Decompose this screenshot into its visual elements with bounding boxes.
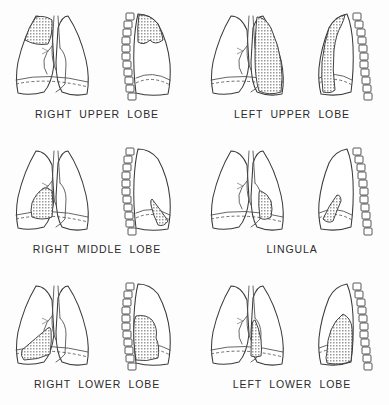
frontal-view <box>16 286 88 365</box>
vertebral-column <box>353 283 372 370</box>
lateral-view <box>319 283 372 370</box>
lateral-view <box>319 13 372 100</box>
lung-lobe-figure: RIGHT UPPER LOBE <box>0 0 389 405</box>
frontal-view <box>16 151 88 230</box>
lateral-view <box>122 283 170 370</box>
frontal-view <box>211 286 283 365</box>
panel-label: RIGHT MIDDLE LOBE <box>0 243 194 255</box>
vertebral-column <box>353 148 372 235</box>
panel-label: LEFT LOWER LOBE <box>195 378 389 390</box>
panel-left-upper-lobe: LEFT UPPER LOBE <box>195 0 389 135</box>
panel-artwork <box>195 270 389 382</box>
panel-right-middle-lobe: RIGHT MIDDLE LOBE <box>0 135 194 270</box>
panel-artwork <box>0 135 194 247</box>
lateral-view <box>122 13 170 100</box>
vertebral-column <box>353 13 372 100</box>
panel-artwork <box>195 0 389 112</box>
lateral-view <box>122 148 170 235</box>
panel-artwork <box>0 0 194 112</box>
panel-artwork <box>195 135 389 247</box>
panel-right-lower-lobe: RIGHT LOWER LOBE <box>0 270 194 405</box>
panel-right-upper-lobe: RIGHT UPPER LOBE <box>0 0 194 135</box>
panel-label: RIGHT UPPER LOBE <box>0 108 194 120</box>
frontal-view <box>16 16 88 95</box>
panel-left-lower-lobe: LEFT LOWER LOBE <box>195 270 389 405</box>
frontal-view <box>211 151 283 230</box>
panel-lingula: LINGULA <box>195 135 389 270</box>
panel-artwork <box>0 270 194 382</box>
panel-label: RIGHT LOWER LOBE <box>0 378 194 390</box>
panel-label: LINGULA <box>195 243 389 255</box>
panel-label: LEFT UPPER LOBE <box>195 108 389 120</box>
frontal-view <box>211 16 283 95</box>
lateral-view <box>319 148 372 235</box>
